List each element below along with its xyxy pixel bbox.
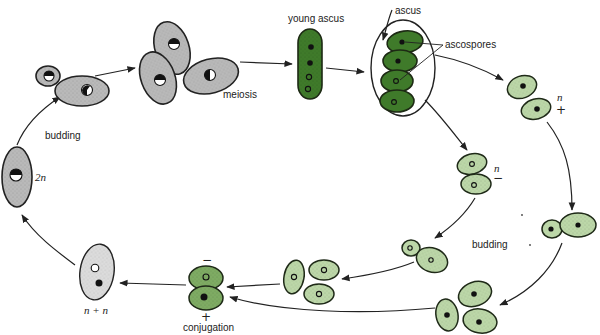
heterokaryon-cell-n-plus-n <box>76 242 117 302</box>
arrow-to-ascus <box>326 68 364 72</box>
arrow-to-young-ascus <box>240 62 292 64</box>
label-ascospores: ascospores <box>445 39 496 50</box>
label-ascus: ascus <box>395 5 421 16</box>
arrow-to-minus-cluster <box>342 262 414 279</box>
label-conjugation-minus: − <box>202 253 212 267</box>
ascus <box>371 20 435 116</box>
label-budding-bottom: budding <box>472 239 508 250</box>
label-mating-plus: + <box>556 103 566 117</box>
conjugating-cells <box>189 266 223 310</box>
arrow-to-n-plus-n <box>120 283 186 285</box>
arrow-to-budding-minus <box>435 198 475 238</box>
haploid-minus-cluster <box>281 259 339 304</box>
haploid-plus-cluster <box>433 277 498 335</box>
label-budding-top: budding <box>45 130 81 141</box>
budding-haploid-minus <box>402 240 451 277</box>
label-conjugation: conjugation <box>183 322 234 333</box>
speck <box>529 244 531 246</box>
haploid-spores-minus <box>455 150 491 194</box>
budding-diploid-cell <box>36 66 109 106</box>
young-ascus <box>298 29 322 99</box>
arrow-to-meiosis <box>95 68 135 76</box>
label-meiosis: meiosis <box>223 89 257 100</box>
label-mating-minus: − <box>493 171 503 185</box>
arrow-to-plus-cluster <box>500 243 562 305</box>
arrow-to-budding-plus <box>547 122 572 210</box>
budding-haploid-plus <box>542 213 596 238</box>
label-young-ascus: young ascus <box>288 13 344 24</box>
arrow-to-diploid <box>22 215 75 265</box>
label-n-plus: n <box>557 91 563 103</box>
diploid-cell-2n <box>2 147 32 207</box>
label-n-plus-n: n + n <box>84 304 108 316</box>
yeast-life-cycle-diagram: 2n budding meiosis young ascus <box>0 0 600 335</box>
label-2n: 2n <box>35 171 47 183</box>
speck <box>521 214 523 216</box>
haploid-spores-plus <box>504 72 553 123</box>
arrow-to-n-minus <box>425 100 467 150</box>
arrow-minus-to-conjugation <box>227 284 280 287</box>
arrow-to-n-plus <box>435 55 503 80</box>
